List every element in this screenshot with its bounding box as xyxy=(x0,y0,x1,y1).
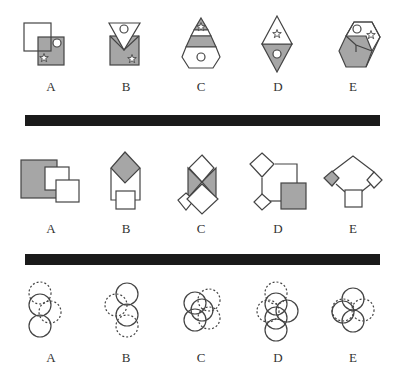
circle-icon xyxy=(353,25,361,33)
row2-figure-e xyxy=(324,156,382,207)
circle-icon xyxy=(120,25,128,33)
row1-figure-a xyxy=(24,23,64,65)
row3-figure-b xyxy=(105,283,138,337)
row1-label-b: B xyxy=(111,79,141,95)
row3-figure-d xyxy=(257,282,298,341)
row1-label-a: A xyxy=(36,79,66,95)
row3-label-b: B xyxy=(111,350,141,366)
puzzle-figure xyxy=(0,0,402,380)
row1-figure-d xyxy=(262,16,292,72)
row2-label-c: C xyxy=(186,221,216,237)
row3-label-d: D xyxy=(263,350,293,366)
row3-figure-e xyxy=(332,288,374,332)
row2-figure-a xyxy=(21,160,79,202)
row2-label-b: B xyxy=(111,221,141,237)
row3-label-a: A xyxy=(36,350,66,366)
circle-icon xyxy=(53,39,61,47)
row1-figure-e xyxy=(339,22,380,67)
row1-figure-c xyxy=(182,18,220,68)
row1-label-c: C xyxy=(186,79,216,95)
circle-icon xyxy=(273,50,281,58)
row2-figure-b xyxy=(111,152,140,209)
row2-figure-c xyxy=(178,155,218,214)
separator-bar-2 xyxy=(25,254,380,265)
row3-label-c: C xyxy=(186,350,216,366)
row2-figure-d xyxy=(250,153,306,210)
row2-label-e: E xyxy=(338,221,368,237)
row2-label-d: D xyxy=(263,221,293,237)
row3-label-e: E xyxy=(338,350,368,366)
row1-label-d: D xyxy=(263,79,293,95)
row1-figure-b xyxy=(109,23,140,65)
row2-label-a: A xyxy=(36,221,66,237)
row3-figure-a xyxy=(29,282,61,337)
separator-bar-1 xyxy=(25,115,380,126)
row1-label-e: E xyxy=(338,79,368,95)
circle-icon xyxy=(197,53,205,61)
row3-figure-c xyxy=(184,289,220,331)
